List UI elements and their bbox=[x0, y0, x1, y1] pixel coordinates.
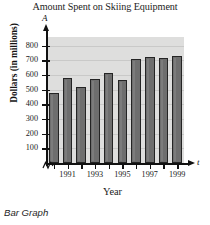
bar-series bbox=[47, 37, 184, 163]
x-tick bbox=[136, 164, 137, 169]
y-tick-label: 600 bbox=[0, 70, 38, 79]
y-tick-label: 200 bbox=[0, 129, 38, 138]
figure-caption: Bar Graph bbox=[4, 207, 48, 218]
bar bbox=[145, 57, 155, 163]
y-tick-label: 300 bbox=[0, 114, 38, 123]
x-axis-label: Year bbox=[30, 186, 195, 197]
y-tick-label: 500 bbox=[0, 85, 38, 94]
x-tick-label: 1997 bbox=[135, 170, 165, 179]
y-tick-label: 100 bbox=[0, 143, 38, 152]
bar bbox=[104, 73, 114, 163]
x-tick bbox=[81, 164, 82, 169]
y-tick bbox=[42, 119, 50, 120]
y-tick-label: 400 bbox=[0, 99, 38, 108]
x-tick-label: 1995 bbox=[107, 170, 137, 179]
x-tick bbox=[177, 164, 178, 169]
y-tick bbox=[42, 46, 50, 47]
bar bbox=[63, 78, 73, 163]
y-tick-label: 700 bbox=[0, 55, 38, 64]
x-axis-arrow-icon bbox=[188, 160, 195, 166]
bar bbox=[118, 80, 128, 163]
bar bbox=[49, 93, 59, 163]
y-tick bbox=[42, 104, 50, 105]
x-tick-label: 1999 bbox=[162, 170, 192, 179]
bar bbox=[90, 79, 100, 163]
x-tick-label: 1991 bbox=[53, 170, 83, 179]
x-tick bbox=[122, 164, 123, 169]
x-tick bbox=[150, 164, 151, 169]
x-tick bbox=[68, 164, 69, 169]
x-tick bbox=[95, 164, 96, 169]
chart-title: Amount Spent on Skiing Equipment bbox=[0, 1, 210, 12]
y-tick bbox=[42, 75, 50, 76]
bar bbox=[76, 87, 86, 163]
y-tick bbox=[42, 60, 50, 61]
x-tick-label: 1993 bbox=[80, 170, 110, 179]
y-tick bbox=[42, 134, 50, 135]
bar bbox=[159, 58, 169, 163]
y-tick-label: 800 bbox=[0, 41, 38, 50]
bar bbox=[131, 59, 141, 163]
x-tick bbox=[109, 164, 110, 169]
x-axis-variable-label: t bbox=[197, 157, 200, 167]
y-axis-variable-label: A bbox=[42, 13, 48, 23]
bar bbox=[172, 56, 182, 163]
y-tick bbox=[42, 90, 50, 91]
x-tick bbox=[54, 164, 55, 169]
bar-graph-figure: Amount Spent on Skiing Equipment Dollars… bbox=[0, 0, 210, 225]
y-axis-arrow-icon bbox=[43, 24, 49, 31]
x-tick bbox=[163, 164, 164, 169]
y-tick bbox=[42, 148, 50, 149]
y-axis-line bbox=[46, 29, 48, 166]
